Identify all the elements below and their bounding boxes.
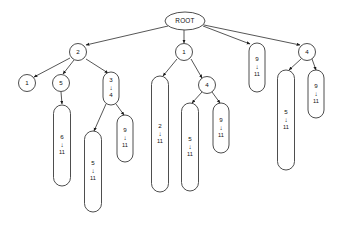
tree-node-label-n3_4-line1: ↓ [109, 84, 112, 91]
tree-node-cap5_11_left[interactable]: 5↓11 [85, 131, 102, 212]
tree-node-label-cap9_11_right-line2: 11 [313, 98, 319, 104]
tree-node-label-cap5_11_right-line2: 11 [283, 124, 289, 130]
tree-node-cap9_11_left[interactable]: 9↓11 [117, 115, 133, 162]
tree-edge-n4mid-to-cap9_11_mid [212, 92, 220, 103]
tree-edge-n5-to-cap6_11 [61, 92, 62, 104]
tree-node-label-cap9_11_root-line2: 11 [254, 71, 260, 77]
tree-node-label-n2-line0: 2 [76, 48, 80, 55]
tree-node-cap5_11_mid[interactable]: 5↓11 [182, 103, 199, 191]
tree-diagram-canvas: ROOT219↓114153↓46↓115↓119↓112↓1145↓119↓1… [0, 0, 344, 226]
tree-node-label-cap6_11-line0: 6 [60, 133, 64, 140]
tree-node-label-cap5_11_mid-line0: 5 [188, 135, 192, 142]
tree-node-label-cap6_11-line2: 11 [59, 149, 65, 155]
tree-node-label-n4mid-line0: 4 [205, 81, 209, 88]
tree-node-label-n4right-line0: 4 [305, 48, 309, 55]
tree-node-label-cap5_11_right-line0: 5 [284, 108, 288, 115]
tree-node-n5[interactable]: 5 [53, 75, 70, 92]
tree-node-n2[interactable]: 2 [70, 44, 87, 61]
tree-node-label-cap9_11_right-line0: 9 [314, 82, 318, 89]
tree-edge-n1mid-to-cap2_11 [163, 59, 177, 76]
tree-node-label-cap9_11_left-line0: 9 [123, 126, 127, 133]
tree-edge-n2-to-n1leaf [34, 58, 70, 77]
tree-node-label-cap2_11-line2: 11 [157, 138, 163, 144]
tree-node-label-n3_4-line0: 3 [109, 76, 113, 83]
tree-node-label-cap9_11_left-line2: 11 [122, 142, 128, 148]
tree-node-cap9_11_mid[interactable]: 9↓11 [213, 103, 229, 153]
tree-node-label-cap9_11_root-line0: 9 [255, 55, 259, 62]
tree-node-label-cap9_11_mid-line0: 9 [219, 116, 223, 123]
tree-node-cap5_11_right[interactable]: 5↓11 [278, 70, 295, 170]
tree-edge-n1mid-to-n4mid [191, 59, 202, 78]
tree-edge-root-to-cap9_11_root [203, 26, 250, 44]
tree-node-label-cap6_11-line1: ↓ [60, 141, 63, 148]
tree-node-label-n3_4-line2: 4 [109, 91, 113, 98]
tree-diagram-svg: ROOT219↓114153↓46↓115↓119↓112↓1145↓119↓1… [0, 0, 344, 226]
tree-edge-root-to-n2 [86, 26, 168, 45]
tree-edge-root-to-n4right [204, 25, 300, 45]
tree-node-label-n1leaf-line0: 1 [25, 79, 29, 86]
tree-edge-n3_4-to-cap5_11_left [94, 104, 106, 131]
tree-node-n1leaf[interactable]: 1 [19, 75, 36, 92]
tree-node-n1mid[interactable]: 1 [176, 44, 193, 61]
tree-node-label-cap9_11_left-line1: ↓ [123, 134, 126, 141]
tree-node-label-cap5_11_left-line0: 5 [91, 159, 95, 166]
tree-node-label-cap5_11_mid-line1: ↓ [188, 143, 191, 150]
tree-node-label-cap5_11_left-line1: ↓ [91, 167, 94, 174]
tree-node-cap2_11[interactable]: 2↓11 [152, 76, 169, 192]
tree-node-cap9_11_root[interactable]: 9↓11 [249, 43, 265, 92]
tree-edge-n4right-to-cap9_11_right [312, 59, 316, 70]
tree-node-label-n5-line0: 5 [59, 79, 63, 86]
tree-edge-n2-to-n3_4 [86, 59, 108, 73]
tree-node-n4right[interactable]: 4 [299, 44, 316, 61]
tree-node-label-cap2_11-line0: 2 [158, 122, 162, 129]
tree-node-cap9_11_right[interactable]: 9↓11 [308, 70, 324, 118]
tree-node-label-cap5_11_mid-line2: 11 [187, 151, 193, 157]
tree-node-cap6_11[interactable]: 6↓11 [54, 105, 71, 186]
tree-node-label-cap2_11-line1: ↓ [158, 130, 161, 137]
tree-node-label-cap5_11_left-line2: 11 [90, 175, 96, 181]
tree-nodes-group: ROOT219↓114153↓46↓115↓119↓112↓1145↓119↓1… [19, 12, 325, 212]
tree-edge-n4right-to-cap5_11_right [289, 59, 301, 70]
tree-node-label-cap9_11_root-line1: ↓ [255, 63, 258, 70]
tree-node-label-n1mid-line0: 1 [182, 48, 186, 55]
tree-node-root[interactable]: ROOT [165, 12, 205, 30]
tree-edges-group [34, 25, 316, 131]
tree-node-label-cap9_11_mid-line2: 11 [218, 132, 224, 138]
tree-node-label-root-line0: ROOT [175, 17, 194, 24]
tree-edge-n3_4-to-cap9_11_left [116, 104, 124, 115]
tree-node-label-cap5_11_right-line1: ↓ [284, 116, 287, 123]
tree-node-n3_4[interactable]: 3↓4 [103, 72, 119, 105]
tree-node-n4mid[interactable]: 4 [199, 77, 216, 94]
tree-node-label-cap9_11_right-line1: ↓ [314, 90, 317, 97]
tree-edge-n2-to-n5 [63, 60, 74, 74]
tree-node-label-cap9_11_mid-line1: ↓ [219, 124, 222, 131]
tree-edge-n4mid-to-cap5_11_mid [192, 92, 202, 103]
